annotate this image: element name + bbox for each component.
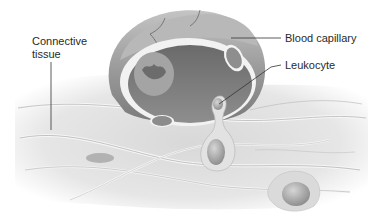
blood-capillary (109, 10, 266, 127)
label-blood-capillary: Blood capillary (285, 32, 357, 45)
label-connective-tissue: Connective tissue (32, 35, 102, 61)
fibroblast-cell (86, 153, 114, 163)
label-leukocyte: Leukocyte (285, 59, 335, 72)
diagram-figure: Connective tissue Blood capillary Leukoc… (0, 0, 383, 220)
